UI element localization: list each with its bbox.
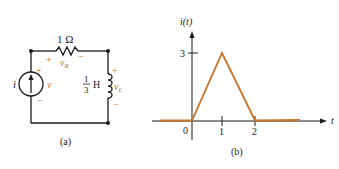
- current-waveform: [160, 53, 300, 121]
- inductor-voltage-label: vL: [114, 81, 122, 94]
- node-dot: [106, 49, 110, 53]
- y-axis-label: i(t): [180, 16, 193, 28]
- resistor-label: 1 Ω: [57, 33, 73, 45]
- inductor-minus: −: [113, 99, 119, 110]
- source-current-label: i: [13, 78, 16, 90]
- inductor-unit: H: [93, 79, 100, 90]
- resistor-minus: −: [78, 51, 84, 62]
- inductor-icon: [108, 74, 112, 98]
- source-voltage-label: v: [47, 79, 52, 90]
- y-tick-label-3: 3: [180, 48, 185, 59]
- resistor-icon: [56, 47, 78, 55]
- x-tick-label-1: 1: [219, 126, 224, 137]
- resistor-plus: +: [46, 54, 52, 65]
- source-minus: −: [37, 95, 43, 106]
- waveform-chart: i(t) t 3 0 1 2 (b): [152, 16, 334, 158]
- inductor-denominator: 3: [84, 85, 89, 95]
- x-axis-label: t: [331, 115, 334, 126]
- inductor-numerator: 1: [84, 74, 89, 84]
- x-axis-arrow-icon: [320, 119, 327, 124]
- source-arrow-head-icon: [29, 74, 34, 80]
- resistor-voltage-label: vR: [60, 57, 69, 70]
- x-tick-label-0: 0: [183, 125, 188, 136]
- caption-a: (a): [60, 136, 71, 148]
- figure: 1 Ω + vR − i + v − 1 3 H + vL − (a) i(t)…: [0, 0, 339, 169]
- caption-b: (b): [231, 146, 243, 158]
- source-plus: +: [36, 65, 42, 76]
- inductor-plus: +: [112, 65, 118, 76]
- y-axis-arrow-icon: [190, 31, 195, 38]
- node-dot: [106, 121, 110, 125]
- x-tick-label-2: 2: [252, 126, 257, 137]
- node-dot: [29, 49, 33, 53]
